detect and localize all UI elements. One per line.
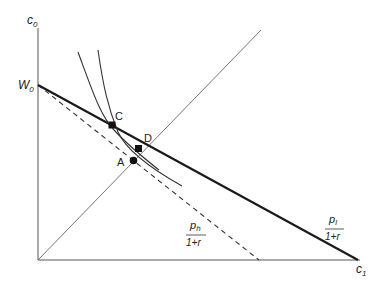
point-d-marker: [135, 145, 142, 152]
svg-text:ph: ph: [189, 219, 201, 233]
slope-label-low: pl 1+r: [325, 213, 344, 242]
x-axis-label: c1: [356, 262, 366, 278]
point-c-marker: [109, 122, 116, 129]
point-d-label: D: [144, 132, 152, 144]
intertemporal-diagram: C D A c0 c1 W0 ph 1+r pl 1+r: [0, 0, 385, 287]
svg-text:pl: pl: [328, 213, 337, 227]
point-a-label: A: [117, 156, 125, 168]
budget-line-high: [38, 85, 259, 260]
wealth-intercept-label: W0: [18, 78, 34, 94]
point-c-label: C: [115, 110, 123, 122]
svg-text:1+r: 1+r: [325, 231, 340, 242]
y-axis-label: c0: [27, 13, 38, 29]
slope-label-high: ph 1+r: [186, 219, 206, 248]
svg-text:1+r: 1+r: [186, 237, 201, 248]
budget-line-low: [38, 85, 358, 260]
point-a-marker: [130, 157, 138, 165]
